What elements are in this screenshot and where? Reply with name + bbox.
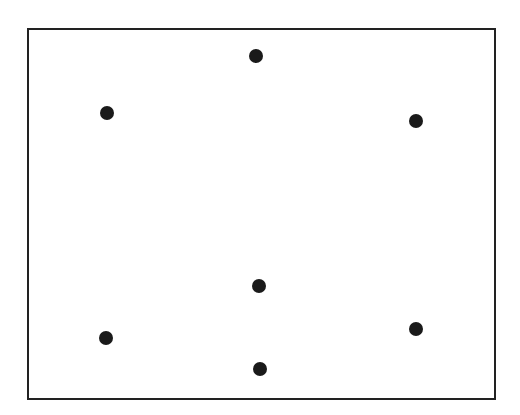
dot-diagram [0, 0, 520, 415]
dots-group [99, 49, 423, 376]
dot-bottom-center [253, 362, 267, 376]
dot-middle-center [252, 279, 266, 293]
dot-top-center [249, 49, 263, 63]
dot-upper-right [409, 114, 423, 128]
dot-lower-right [409, 322, 423, 336]
dot-lower-left [99, 331, 113, 345]
dot-upper-left [100, 106, 114, 120]
frame-rectangle [28, 29, 495, 399]
